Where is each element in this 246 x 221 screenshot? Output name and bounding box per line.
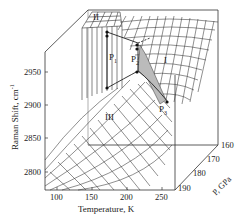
point-label-p2: P2 (131, 54, 139, 66)
phase-label-ii: II (93, 12, 99, 22)
y-axis-label-sup: -1 (9, 84, 15, 89)
y-axis-label-main: Raman Shift, cm (10, 89, 20, 150)
p2-sub: 2 (136, 60, 139, 66)
z-tick-160: 160 (221, 140, 234, 150)
y-tick-2950: 2950 (24, 67, 41, 77)
x-tick-200: 200 (120, 192, 133, 202)
z-tick-170: 170 (207, 154, 220, 164)
z-tick-190: 190 (178, 183, 191, 193)
x-axis-label: Temperature, K (78, 204, 134, 214)
point-label-p1: P1 (109, 52, 117, 64)
bounding-box (45, 10, 218, 190)
y-tick-2800: 2800 (24, 167, 41, 177)
z-tick-180: 180 (193, 168, 206, 178)
x-tick-150: 150 (85, 192, 98, 202)
y-axis-label: Raman Shift, cm-1 (9, 84, 20, 150)
x-tick-250: 250 (155, 192, 168, 202)
y-tick-2900: 2900 (24, 100, 41, 110)
phase-label-i: I (164, 55, 167, 65)
transition-lines (107, 32, 168, 102)
p1-sub: 1 (114, 58, 117, 64)
x-tick-100: 100 (50, 192, 63, 202)
phase-label-iii: III (105, 112, 114, 122)
surface-plot (0, 0, 246, 221)
phase-iii-surface (45, 80, 172, 190)
y-tick-2850: 2850 (24, 133, 41, 143)
p3-sub: 3 (164, 110, 167, 116)
tick-marks (45, 72, 162, 190)
point-label-p3: P3 (159, 104, 167, 116)
